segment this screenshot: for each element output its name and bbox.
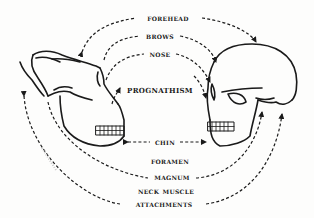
- label-magnum: Magnum: [154, 173, 190, 182]
- label-neck-muscle: Neck Muscle: [138, 187, 194, 196]
- label-prognathism: Prognathism: [127, 85, 193, 95]
- label-attachments: Attachments: [136, 200, 193, 209]
- pencil-mark: [42, 148, 56, 170]
- label-foramen: Foramen: [151, 157, 189, 166]
- label-forehead: Forehead: [147, 14, 189, 23]
- label-nose: Nose: [150, 50, 171, 59]
- label-brows: Brows: [146, 32, 174, 41]
- label-chin: Chin: [155, 138, 175, 147]
- skull-comparison-diagram: Forehead Brows Nose Prognathism Chin For…: [0, 0, 314, 218]
- connector-arrows: [24, 18, 282, 204]
- ape-skull-icon: [20, 51, 124, 146]
- human-skull-icon: [207, 44, 297, 146]
